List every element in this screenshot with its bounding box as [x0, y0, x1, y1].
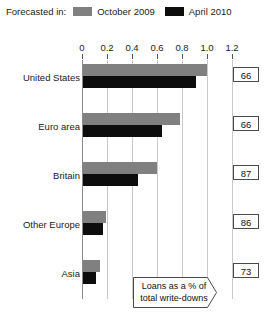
category-label-2: Britain [53, 170, 80, 181]
side-value-box-3: 86 [233, 214, 259, 229]
category-label-3: Other Europe [23, 219, 80, 230]
category-label-0: United States [23, 72, 80, 83]
x-axis-tick-4 [182, 54, 183, 59]
x-axis-tick-6 [232, 54, 233, 59]
x-axis-tick-label-1: 0.2 [95, 42, 119, 53]
x-axis-tick-label-6: 1.2 [220, 42, 244, 53]
x-axis-tick-label-2: 0.4 [120, 42, 144, 53]
bar-3-1 [83, 223, 103, 235]
x-axis-tick-0 [82, 54, 83, 59]
category-label-1: Euro area [38, 121, 80, 132]
annotation-line-1: Loans as a % of [137, 280, 211, 292]
x-axis-tick-label-4: 0.8 [170, 42, 194, 53]
category-label-4: Asia [62, 268, 80, 279]
x-axis-tick-2 [132, 54, 133, 59]
x-axis-tick-label-5: 1.0 [195, 42, 219, 53]
bar-chart-plot: 00.20.40.60.81.01.2United States66Euro a… [0, 0, 267, 316]
bar-0-1 [83, 76, 196, 88]
side-value-box-1: 66 [233, 116, 259, 131]
x-axis-tick-3 [157, 54, 158, 59]
annotation-callout: Loans as a % of total write-downs [133, 277, 217, 308]
gridline-5 [207, 60, 208, 299]
bar-4-0 [83, 260, 100, 272]
bar-4-1 [83, 272, 96, 284]
bar-1-1 [83, 125, 162, 137]
bar-1-0 [83, 113, 180, 125]
bar-2-0 [83, 162, 157, 174]
x-axis-tick-5 [207, 54, 208, 59]
side-value-box-2: 87 [233, 165, 259, 180]
annotation-line-2: total write-downs [137, 292, 211, 304]
x-axis-tick-1 [107, 54, 108, 59]
x-axis-tick-label-3: 0.6 [145, 42, 169, 53]
gridline-4 [182, 60, 183, 299]
bar-3-0 [83, 211, 106, 223]
x-axis-tick-label-0: 0 [70, 42, 94, 53]
annotation-text: Loans as a % of total write-downs [137, 280, 211, 304]
bar-2-1 [83, 174, 138, 186]
gridline-3 [157, 60, 158, 299]
side-value-box-4: 73 [233, 263, 259, 278]
side-value-box-0: 66 [233, 67, 259, 82]
bar-0-0 [83, 64, 207, 76]
